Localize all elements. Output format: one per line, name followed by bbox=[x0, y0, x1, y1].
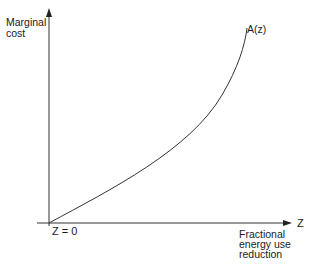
x-axis-label-line3: reduction bbox=[239, 249, 282, 259]
origin-label: Z = 0 bbox=[52, 226, 77, 236]
x-axis-arrow-icon bbox=[283, 220, 292, 226]
y-axis-arrow-icon bbox=[46, 8, 52, 17]
y-axis-label-line2: cost bbox=[6, 28, 25, 38]
curve-a-z bbox=[49, 28, 247, 223]
y-axis-label-line1: Marginal bbox=[6, 17, 46, 27]
x-axis-symbol: Z bbox=[297, 218, 304, 228]
curve-label: A(z) bbox=[247, 24, 266, 34]
